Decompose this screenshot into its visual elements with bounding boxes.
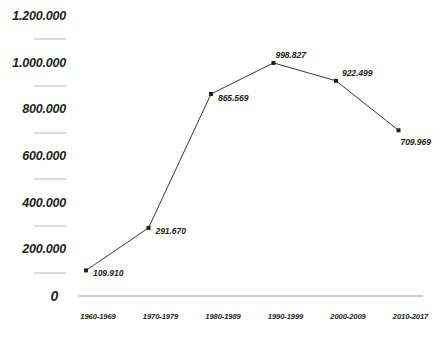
- x-tick-label: 1960-1969: [80, 312, 115, 321]
- data-point-marker[interactable]: [334, 79, 338, 83]
- y-minor-tick: [34, 132, 66, 133]
- y-minor-tick: [34, 179, 66, 180]
- data-point-marker[interactable]: [397, 128, 401, 132]
- x-tick-label: 1990-1999: [268, 312, 303, 321]
- y-axis: 1.200.0001.000.000800.000600.000400.0002…: [0, 0, 78, 342]
- data-point-marker[interactable]: [84, 268, 88, 272]
- y-tick-label: 200.000: [22, 242, 66, 256]
- line-chart: 1.200.0001.000.000800.000600.000400.0002…: [0, 0, 433, 342]
- y-tick-label: 600.000: [22, 149, 66, 163]
- data-point-label: 998.827: [276, 50, 306, 60]
- y-tick-label: 400.000: [22, 196, 66, 210]
- y-minor-tick: [34, 39, 66, 40]
- x-tick-label: 2010-2017: [393, 312, 428, 321]
- data-point-label: 109.910: [93, 268, 123, 278]
- x-tick-label: 1970-1979: [143, 312, 178, 321]
- y-tick-label: 800.000: [22, 102, 66, 116]
- series-line-svg: [78, 0, 433, 342]
- y-tick-label: 0: [50, 288, 58, 304]
- data-point-marker[interactable]: [272, 61, 276, 65]
- data-point-label: 865.569: [218, 93, 248, 103]
- x-tick-label: 1980-1989: [205, 312, 240, 321]
- x-tick-label: 2000-2009: [330, 312, 365, 321]
- y-minor-tick: [34, 272, 66, 273]
- data-point-marker[interactable]: [147, 226, 151, 230]
- data-point-label: 709.969: [401, 137, 431, 147]
- y-minor-tick: [34, 226, 66, 227]
- plot-area: 109.910291.670865.569998.827922.499709.9…: [78, 0, 433, 342]
- y-tick-label: 1.200.000: [12, 9, 66, 23]
- data-point-marker[interactable]: [209, 92, 213, 96]
- data-point-label: 922.499: [342, 68, 372, 78]
- data-point-label: 291.670: [156, 226, 186, 236]
- y-minor-tick: [34, 86, 66, 87]
- y-tick-label: 1.000.000: [12, 56, 66, 70]
